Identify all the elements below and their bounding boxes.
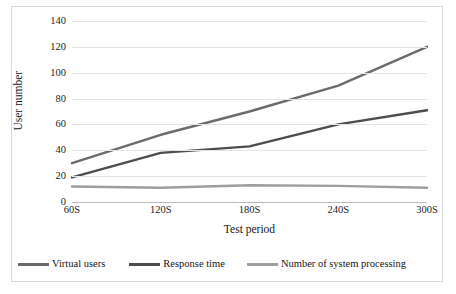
y-axis-title: User number <box>13 51 25 151</box>
y-tick-label-100: 100 <box>26 67 66 78</box>
gridline-60 <box>72 124 427 125</box>
x-axis-tick-labels: 60S120S180S240S300S <box>72 205 427 221</box>
legend-label: Virtual users <box>52 259 105 270</box>
gridline-100 <box>72 73 427 74</box>
gridline-80 <box>72 99 427 100</box>
legend-swatch-icon <box>129 263 160 266</box>
x-tick-label-240S: 240S <box>327 205 349 216</box>
series-lines <box>72 21 427 202</box>
chart-legend: Virtual usersResponse timeNumber of syst… <box>18 255 438 273</box>
plot-area <box>72 21 427 202</box>
y-tick-label-80: 80 <box>26 93 66 104</box>
series-line-1 <box>72 110 427 177</box>
y-tick-label-120: 120 <box>26 42 66 53</box>
x-axis-title: Test period <box>72 224 427 236</box>
legend-item-0[interactable]: Virtual users <box>18 259 105 270</box>
y-tick-label-60: 60 <box>26 119 66 130</box>
gridline-140 <box>72 21 427 22</box>
legend-label: Response time <box>163 259 225 270</box>
gridline-0 <box>72 202 427 203</box>
gridline-20 <box>72 176 427 177</box>
x-tick-label-300S: 300S <box>416 205 438 216</box>
x-tick-label-120S: 120S <box>150 205 172 216</box>
gridline-120 <box>72 47 427 48</box>
series-line-2 <box>72 185 427 188</box>
gridline-40 <box>72 150 427 151</box>
y-tick-label-40: 40 <box>26 145 66 156</box>
legend-swatch-icon <box>247 263 278 266</box>
legend-item-1[interactable]: Response time <box>129 259 225 270</box>
y-tick-label-0: 0 <box>26 197 66 208</box>
legend-item-2[interactable]: Number of system processing <box>247 259 406 270</box>
y-tick-label-20: 20 <box>26 171 66 182</box>
chart-screenshot: 020406080100120140 User number 60S120S18… <box>0 0 456 294</box>
x-tick-label-60S: 60S <box>64 205 80 216</box>
y-tick-label-140: 140 <box>26 16 66 27</box>
x-tick-label-180S: 180S <box>239 205 261 216</box>
legend-label: Number of system processing <box>281 259 406 270</box>
legend-swatch-icon <box>18 263 49 266</box>
y-axis-tick-labels: 020406080100120140 <box>20 21 66 202</box>
